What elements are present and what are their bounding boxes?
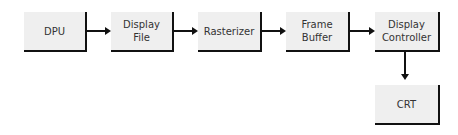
arrowhead-icon [401, 74, 409, 80]
node-label: Rasterizer [204, 25, 255, 38]
node-display-controller: Display Controller [375, 12, 440, 52]
node-label: DPU [44, 25, 65, 38]
node-label: CRT [397, 98, 416, 111]
node-label: Frame Buffer [301, 18, 332, 44]
node-label: Display Controller [382, 18, 431, 44]
node-label: Display File [123, 18, 160, 44]
node-crt: CRT [375, 85, 440, 125]
node-display-file: Display File [111, 12, 174, 52]
node-dpu: DPU [24, 12, 87, 52]
node-frame-buffer: Frame Buffer [286, 12, 350, 52]
node-rasterizer: Rasterizer [198, 12, 262, 52]
